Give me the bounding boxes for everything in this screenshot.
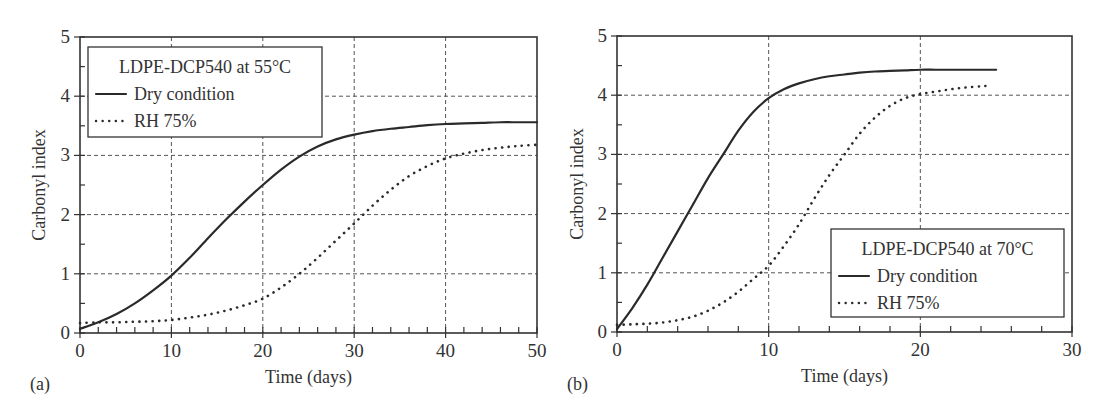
y-tick-label: 5 <box>598 25 608 46</box>
y-tick-label: 3 <box>61 144 71 165</box>
y-tick-label: 5 <box>61 26 71 47</box>
legend-entry: Dry condition <box>134 84 235 104</box>
legend-title: LDPE-DCP540 at 70°C <box>861 239 1033 259</box>
y-axis-title: Carbonyl index <box>29 129 49 240</box>
x-axis-title: Time (days) <box>801 366 888 387</box>
legend: LDPE-DCP540 at 70°CDry conditionRH 75% <box>831 229 1064 317</box>
series-rh75-line <box>80 145 537 323</box>
panel-label: (b) <box>567 374 588 395</box>
y-tick-label: 0 <box>61 322 71 343</box>
legend: LDPE-DCP540 at 55°CDry conditionRH 75% <box>88 47 322 137</box>
x-tick-label: 10 <box>759 339 778 360</box>
y-tick-label: 4 <box>61 85 71 106</box>
figure: 01020304050012345Time (days)Carbonyl ind… <box>0 0 1094 403</box>
x-tick-label: 10 <box>162 340 181 361</box>
y-axis-title: Carbonyl index <box>567 128 587 239</box>
y-tick-label: 2 <box>598 203 608 224</box>
x-axis-title: Time (days) <box>265 367 352 388</box>
panel-label: (a) <box>30 374 50 395</box>
y-tick-label: 2 <box>61 204 71 225</box>
x-tick-label: 50 <box>528 340 547 361</box>
x-tick-label: 30 <box>345 340 364 361</box>
x-tick-label: 20 <box>253 340 272 361</box>
legend-title: LDPE-DCP540 at 55°C <box>119 57 291 77</box>
x-tick-label: 0 <box>75 340 85 361</box>
y-tick-label: 1 <box>61 263 71 284</box>
y-tick-label: 1 <box>598 262 608 283</box>
chart-panel-a: 01020304050012345Time (days)Carbonyl ind… <box>29 26 547 395</box>
x-tick-label: 20 <box>911 339 930 360</box>
series-lines <box>80 122 537 329</box>
x-tick-label: 30 <box>1063 339 1082 360</box>
chart-panel-b: 0102030012345Time (days)Carbonyl index(b… <box>567 25 1082 395</box>
legend-entry: RH 75% <box>134 111 197 131</box>
x-tick-label: 40 <box>436 340 455 361</box>
legend-entry: RH 75% <box>877 293 940 313</box>
x-tick-label: 0 <box>612 339 622 360</box>
legend-entry: Dry condition <box>877 266 978 286</box>
y-tick-label: 4 <box>598 84 608 105</box>
y-tick-label: 0 <box>598 321 608 342</box>
y-tick-label: 3 <box>598 143 608 164</box>
